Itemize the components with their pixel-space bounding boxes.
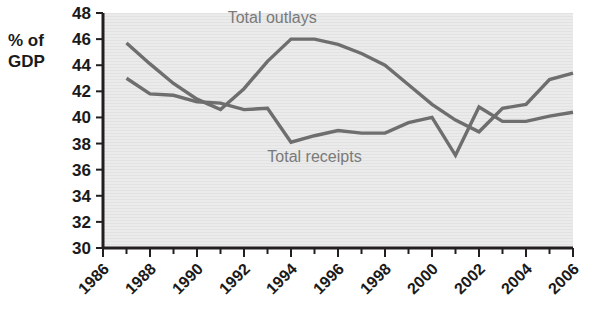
series-label-total-outlays: Total outlays — [228, 9, 317, 26]
chart-figure: % of GDP 4846444240383634323019861988199… — [0, 0, 600, 322]
x-tick-label: 1986 — [75, 260, 112, 297]
x-axis-ticks: 1986198819901992199419961998200020022004… — [75, 248, 582, 297]
y-tick-label: 42 — [72, 82, 91, 101]
y-tick-label: 32 — [72, 213, 91, 232]
y-tick-label: 44 — [72, 56, 91, 75]
x-tick-label: 1998 — [357, 260, 394, 297]
x-tick-label: 1992 — [216, 260, 253, 297]
x-tick-label: 1994 — [263, 260, 300, 297]
x-tick-label: 2006 — [545, 260, 582, 297]
y-tick-label: 34 — [72, 187, 91, 206]
y-axis-ticks: 48464442403836343230 — [72, 4, 103, 258]
series-label-total-receipts: Total receipts — [267, 148, 361, 165]
y-tick-label: 30 — [72, 239, 91, 258]
x-tick-label: 1990 — [169, 260, 206, 297]
line-chart: 4846444240383634323019861988199019921994… — [0, 0, 600, 322]
y-tick-label: 46 — [72, 30, 91, 49]
x-tick-label: 2004 — [498, 260, 535, 297]
x-tick-label: 2000 — [404, 260, 441, 297]
x-tick-label: 1996 — [310, 260, 347, 297]
y-tick-label: 38 — [72, 135, 91, 154]
x-tick-label: 2002 — [451, 260, 488, 297]
y-tick-label: 40 — [72, 108, 91, 127]
y-tick-label: 36 — [72, 161, 91, 180]
x-tick-label: 1988 — [122, 260, 159, 297]
y-tick-label: 48 — [72, 4, 91, 23]
